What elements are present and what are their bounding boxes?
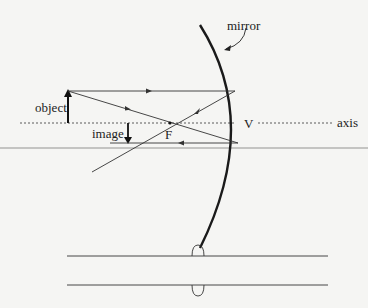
focal-point-marker xyxy=(168,121,171,124)
top-line-loop xyxy=(192,245,204,256)
ray-direction-arrow-icon xyxy=(178,141,184,146)
bottom-line-loop xyxy=(192,285,204,296)
ray-diagram: mirror object image F V axis xyxy=(0,0,368,308)
ray-direction-arrow-icon xyxy=(146,89,152,94)
image-label: image xyxy=(92,126,124,141)
diagram-canvas: mirror object image F V axis xyxy=(0,0,368,308)
object-arrowhead-icon xyxy=(64,89,72,97)
mirror-pointer-arrowhead-icon xyxy=(224,45,231,51)
vertex-label: V xyxy=(244,116,254,131)
mirror-label: mirror xyxy=(227,18,261,33)
focal-point-label: F xyxy=(165,127,172,142)
axis-label: axis xyxy=(337,115,358,130)
object-label: object xyxy=(35,100,67,115)
